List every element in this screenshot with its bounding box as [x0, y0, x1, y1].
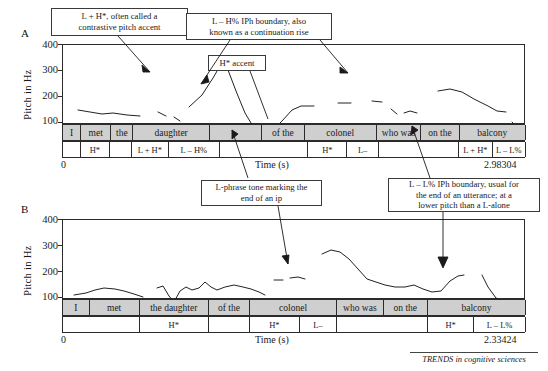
tier-cell: [209, 317, 250, 332]
tier-cell: H*: [250, 317, 300, 332]
tier-cell: L – L%: [474, 317, 526, 332]
panel-b-x-axis-label: Time (s): [255, 334, 289, 345]
panel-a-callout-leaders: [0, 0, 548, 200]
panel-b-tone-tier: H*H*L–H*L – L%: [62, 316, 525, 333]
panel-b-x-min-label: 0: [61, 334, 66, 345]
tier-cell: H*: [140, 317, 209, 332]
panel-b-x-max-label: 2.33424: [484, 334, 517, 345]
callout-l-phrase-tone-line2: end of an ip: [241, 193, 282, 203]
panel-b-callout-leaders: [0, 206, 548, 316]
figure-source-footer: TRENDS in cognitive sciences: [410, 352, 538, 364]
callout-l-phrase-tone: L-phrase tone marking the end of an ip: [201, 180, 322, 206]
callout-l-phrase-tone-line1: L-phrase tone marking the: [216, 182, 308, 192]
tier-cell: L–: [300, 317, 337, 332]
callout-ll-iph-boundary-line1: L – L% IPh boundary, usual for: [409, 179, 519, 189]
tier-cell: H*: [428, 317, 474, 332]
tier-cell: [63, 317, 140, 332]
footer-text: TRENDS in cognitive sciences: [422, 354, 526, 364]
callout-ll-iph-boundary-line2: the end of an utterance; at a: [416, 190, 512, 200]
tier-cell: [337, 317, 428, 332]
